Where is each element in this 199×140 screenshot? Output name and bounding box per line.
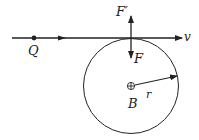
charge-label: Q [28, 43, 39, 58]
diagram-canvas: Q v F′ F B r [0, 0, 199, 140]
velocity-label: v [184, 30, 191, 44]
field-label: B [127, 96, 138, 111]
force-diagram: Q v F′ F B r [0, 0, 199, 140]
radius-arrow [135, 76, 177, 85]
charge-dot [32, 36, 37, 41]
reaction-force-label: F′ [115, 4, 128, 19]
radius-label: r [146, 88, 152, 101]
magnetic-field-into-page-icon [127, 82, 134, 89]
direction-arrow-icon [58, 36, 66, 41]
force-label: F [133, 51, 144, 66]
